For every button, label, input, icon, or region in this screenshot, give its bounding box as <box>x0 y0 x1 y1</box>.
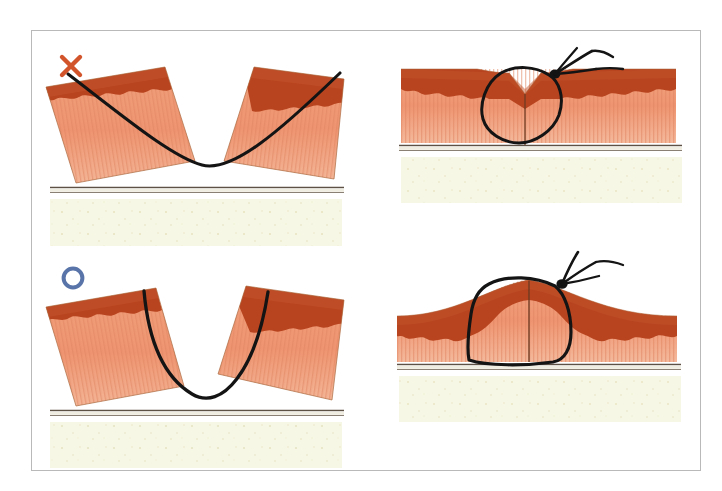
panel-shallow-bite-result <box>377 31 702 251</box>
tissue-slab-top-right <box>397 61 687 151</box>
fat-layer-top-left <box>50 199 342 246</box>
fascia-layer-bottom-right <box>397 365 681 370</box>
panel-deep-bite-result <box>377 244 702 469</box>
panel-shallow-bite-needle-pass <box>32 31 367 251</box>
fat-layer-top-right <box>401 157 682 203</box>
panel-deep-bite-needle-pass <box>32 244 367 469</box>
illustration-root: Suture placement depth comparison — woun… <box>0 0 722 491</box>
tissue-slab-bottom-right <box>393 272 685 368</box>
fat-layer-bottom-right <box>399 376 681 422</box>
fat-layer-bottom-left <box>50 422 342 468</box>
fascia-layer-top-right <box>399 146 682 151</box>
suture-knot-bottom-right <box>556 252 623 289</box>
fascia-layer-bottom-left <box>50 411 344 416</box>
tissue-wedge-left-top-left <box>0 21 264 230</box>
figure-frame: Needle passes through a shallow, narrow … <box>31 30 701 471</box>
fascia-layer-top-left <box>50 188 344 193</box>
